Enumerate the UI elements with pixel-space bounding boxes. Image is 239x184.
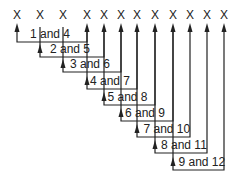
arrow-up-icon (119, 108, 124, 117)
item-marker: X (83, 9, 91, 21)
pair-label: 9 and 12 (179, 156, 226, 168)
pair-label: 6 and 9 (125, 107, 165, 119)
item-marker: X (59, 9, 67, 21)
arrow-up-icon (222, 23, 227, 32)
arrow-up-icon (188, 23, 193, 32)
item-marker: X (117, 9, 125, 21)
pair-label: 1 and 4 (30, 28, 70, 40)
item-marker: X (13, 9, 21, 21)
arrow-up-icon (153, 140, 158, 149)
arrow-up-icon (85, 76, 90, 85)
arrow-up-icon (171, 157, 176, 166)
item-marker: X (203, 9, 211, 21)
pair-label: 7 and 10 (144, 123, 191, 135)
pairing-diagram: XXXXXXXXXXXX1 and 42 and 53 and 64 and 7… (0, 0, 239, 184)
arrow-up-icon (38, 44, 43, 53)
arrow-up-icon (102, 92, 107, 101)
pair-label: 4 and 7 (90, 75, 130, 87)
item-marker: X (186, 9, 194, 21)
item-marker: X (220, 9, 228, 21)
arrow-up-icon (135, 124, 140, 133)
arrow-up-icon (61, 59, 66, 68)
pair-label: 2 and 5 (50, 43, 90, 55)
pair-label: 8 and 11 (161, 139, 207, 151)
item-marker: X (169, 9, 177, 21)
item-marker: X (151, 9, 159, 21)
arrow-up-icon (205, 23, 210, 32)
pair-label: 3 and 6 (70, 58, 110, 70)
arrow-up-icon (15, 23, 20, 32)
item-marker: X (133, 9, 141, 21)
pair-label: 5 and 8 (108, 91, 148, 103)
item-marker: X (36, 9, 44, 21)
item-marker: X (100, 9, 108, 21)
